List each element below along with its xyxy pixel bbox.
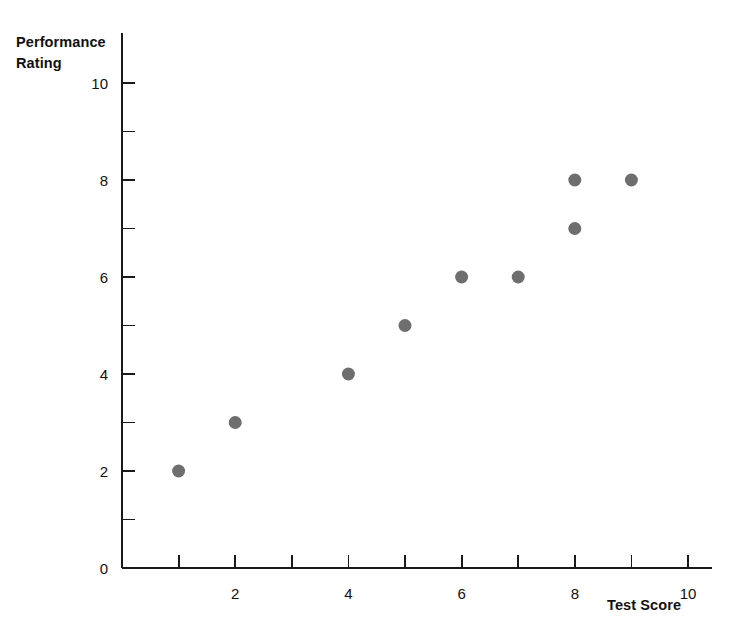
y-tick-label: 8: [0, 172, 108, 189]
data-point: [625, 174, 638, 187]
x-tick-label: 8: [571, 585, 579, 602]
x-axis-ticks: [179, 555, 688, 568]
scatter-chart: Performance Rating Test Score 0246810 24…: [0, 0, 742, 631]
y-tick-label: 2: [0, 463, 108, 480]
y-tick-label: 10: [0, 75, 108, 92]
data-points: [172, 174, 638, 478]
data-point: [568, 174, 581, 187]
y-tick-label: 6: [0, 269, 108, 286]
data-point: [455, 271, 468, 284]
data-point: [399, 319, 412, 332]
plot-area: [0, 0, 742, 631]
y-tick-label: 4: [0, 366, 108, 383]
data-point: [172, 465, 185, 478]
axes: [122, 33, 712, 568]
y-axis-ticks: [122, 83, 135, 520]
data-point: [342, 368, 355, 381]
data-point: [512, 271, 525, 284]
x-tick-label: 2: [231, 585, 239, 602]
data-point: [568, 222, 581, 235]
x-tick-label: 10: [680, 585, 697, 602]
y-tick-label: 0: [0, 560, 108, 577]
x-tick-label: 4: [344, 585, 352, 602]
data-point: [229, 416, 242, 429]
x-tick-label: 6: [457, 585, 465, 602]
